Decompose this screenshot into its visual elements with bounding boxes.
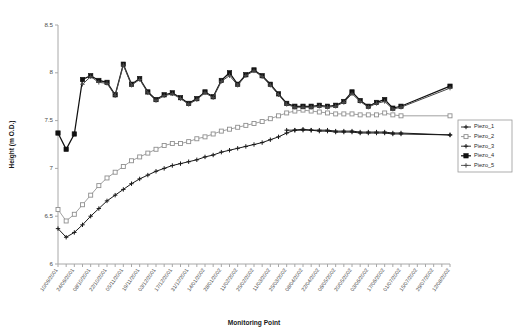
data-point: [56, 208, 60, 212]
legend-label: Piezo_4: [474, 152, 494, 158]
data-point: [383, 111, 387, 115]
legend-label: Piezo_2: [474, 133, 494, 139]
data-point: [334, 112, 338, 116]
series-path: [58, 110, 450, 221]
data-point: [195, 137, 199, 141]
y-tick-label: 7: [50, 164, 54, 171]
data-point: [56, 131, 60, 135]
data-point: [350, 112, 354, 116]
legend-label: Piezo_1: [474, 123, 494, 129]
data-point: [277, 114, 281, 118]
data-point: [138, 155, 142, 159]
data-point: [89, 193, 93, 197]
data-point: [105, 176, 109, 180]
data-point: [293, 109, 297, 113]
data-point: [170, 142, 174, 146]
series-path: [83, 65, 451, 109]
data-point: [464, 154, 468, 158]
data-point: [391, 113, 395, 117]
data-point: [203, 135, 207, 139]
y-axis-title-group: Height (m O.D.): [8, 121, 16, 169]
data-point: [162, 143, 166, 147]
series-piezo_3: [56, 127, 452, 239]
data-point: [187, 140, 191, 144]
data-point: [448, 114, 452, 118]
data-point: [317, 110, 321, 114]
data-point: [179, 142, 183, 146]
data-point: [252, 121, 256, 125]
y-tick-label: 7.5: [44, 116, 53, 123]
data-point: [375, 113, 379, 117]
legend-label: Piezo_3: [474, 143, 494, 149]
data-point: [211, 132, 215, 136]
data-point: [154, 147, 158, 151]
data-point: [113, 170, 117, 174]
y-tick-label: 8: [50, 68, 54, 75]
data-point: [236, 125, 240, 129]
x-axis-title: Monitoring Point: [228, 319, 281, 327]
data-point: [228, 127, 232, 131]
data-point: [326, 111, 330, 115]
data-point: [244, 123, 248, 127]
line-chart: 66.577.588.510/09/200124/09/200108/10/20…: [0, 0, 525, 331]
data-point: [358, 113, 362, 117]
data-point: [64, 147, 68, 151]
series-piezo_2: [56, 108, 452, 223]
data-point: [464, 135, 468, 139]
y-tick-label: 8.5: [44, 21, 53, 28]
data-point: [121, 164, 125, 168]
data-point: [399, 114, 403, 118]
y-tick-label: 6.5: [44, 212, 53, 219]
data-point: [81, 203, 85, 207]
data-point: [72, 212, 76, 216]
data-point: [146, 151, 150, 155]
series-piezo_4: [56, 62, 452, 151]
data-point: [309, 109, 313, 113]
series-piezo_5: [80, 63, 452, 111]
y-tick-label: 6: [50, 260, 54, 267]
data-point: [268, 117, 272, 121]
data-point: [97, 184, 101, 188]
data-point: [219, 129, 223, 133]
data-point: [342, 112, 346, 116]
data-point: [80, 77, 84, 81]
y-axis-title: Height (m O.D.): [8, 121, 16, 169]
data-point: [72, 132, 76, 136]
data-point: [64, 219, 68, 223]
data-point: [260, 120, 264, 124]
legend-label: Piezo_5: [474, 162, 494, 168]
chart-container: 66.577.588.510/09/200124/09/200108/10/20…: [0, 0, 525, 331]
data-point: [130, 159, 134, 163]
data-point: [366, 113, 370, 117]
data-point: [285, 111, 289, 115]
